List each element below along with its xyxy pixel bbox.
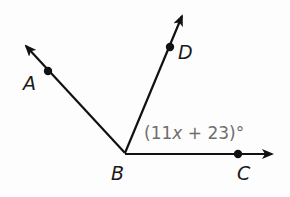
point-D-label: D [178,41,193,63]
angle-label-close: + 23)° [182,123,244,143]
point-A-label: A [21,72,36,94]
angle-label-open: (11 [144,123,172,143]
geometry-diagram: A D C B (11x + 23)° [0,0,290,197]
point-C-dot [234,150,242,158]
angle-DBC-measure: (11x + 23)° [144,123,244,143]
point-A-dot [44,67,52,75]
angle-diagram-svg: A D C B (11x + 23)° [0,0,290,197]
point-D-dot [166,43,174,51]
ray-BA: A [21,46,125,153]
point-C-label: C [237,162,251,184]
vertex-B-label: B [111,162,124,184]
ray-BC: C [125,150,272,184]
